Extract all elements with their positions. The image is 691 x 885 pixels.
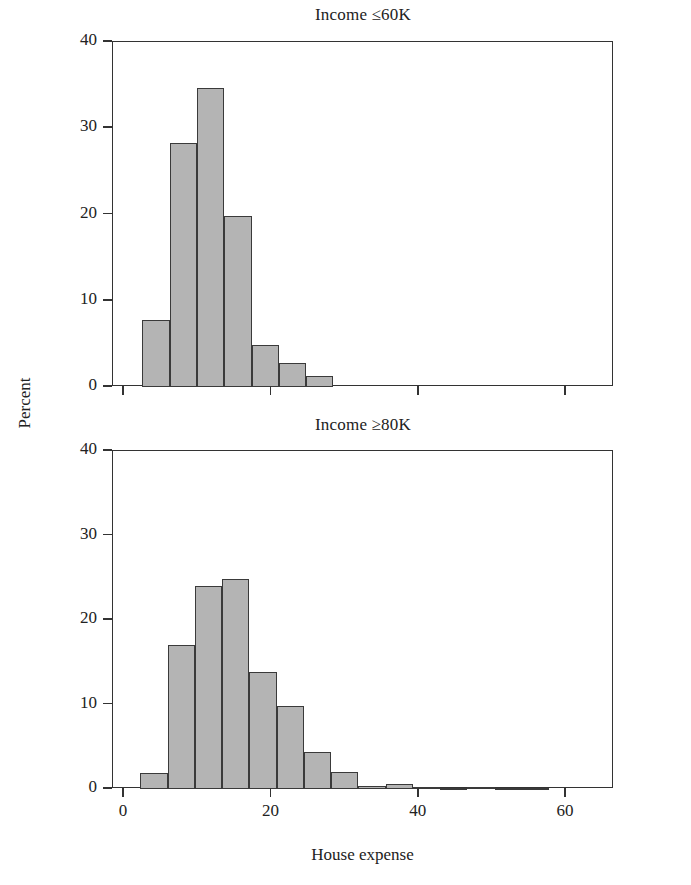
y-tick-mark (103, 385, 112, 387)
x-tick-label: 40 (388, 801, 448, 821)
x-tick-label: 60 (535, 801, 595, 821)
histogram-bar (440, 788, 467, 790)
x-tick-mark (122, 386, 124, 395)
y-tick-label: 30 (52, 524, 97, 544)
x-tick-mark (417, 386, 419, 395)
y-tick-label: 40 (52, 439, 97, 459)
y-tick-mark (103, 618, 112, 620)
x-tick-mark (270, 788, 272, 797)
y-tick-label: 0 (52, 777, 97, 797)
y-tick-mark (103, 40, 112, 42)
y-tick-mark (103, 787, 112, 789)
figure-histogram-panels: Percent Income ≤60K 010203040 Income ≥80… (0, 0, 691, 885)
histogram-bar (168, 645, 195, 789)
x-axis-label: House expense (112, 845, 613, 865)
x-tick-mark (417, 788, 419, 797)
histogram-bar (331, 772, 358, 789)
y-tick-label: 10 (52, 693, 97, 713)
x-tick-mark (122, 788, 124, 797)
histogram-bar (140, 773, 167, 789)
x-tick-mark (564, 788, 566, 797)
y-tick-label: 20 (52, 203, 97, 223)
panel-title-top: Income ≤60K (113, 5, 613, 25)
histogram-bar (304, 752, 331, 789)
y-tick-label: 20 (52, 608, 97, 628)
y-tick-mark (103, 126, 112, 128)
histogram-bar (522, 788, 549, 790)
bar-series-bottom (113, 451, 612, 787)
x-tick-label: 0 (93, 801, 153, 821)
y-axis-label: Percent (15, 358, 35, 448)
x-tick-mark (564, 386, 566, 395)
histogram-bar (197, 88, 224, 387)
x-tick-mark (270, 386, 272, 395)
bar-series-top (113, 42, 612, 385)
x-tick-label: 20 (240, 801, 300, 821)
y-tick-label: 40 (52, 30, 97, 50)
y-tick-mark (103, 534, 112, 536)
histogram-bar (467, 787, 494, 789)
histogram-bar (386, 784, 413, 789)
y-tick-mark (103, 213, 112, 215)
histogram-bar (306, 376, 333, 387)
plot-area-top (112, 41, 613, 386)
histogram-bar (195, 586, 222, 789)
panel-title-bottom: Income ≥80K (113, 415, 613, 435)
plot-area-bottom (112, 450, 613, 788)
histogram-bar (222, 579, 249, 789)
histogram-bar (252, 345, 279, 387)
histogram-bar (224, 216, 251, 387)
histogram-bar (249, 672, 276, 789)
y-tick-label: 0 (52, 375, 97, 395)
histogram-bar (277, 706, 304, 789)
histogram-bar (279, 363, 306, 387)
y-tick-mark (103, 449, 112, 451)
histogram-bar (495, 788, 522, 790)
y-tick-label: 10 (52, 289, 97, 309)
y-tick-mark (103, 299, 112, 301)
histogram-bar (170, 143, 197, 387)
histogram-bar (142, 320, 169, 387)
histogram-bar (358, 786, 385, 789)
y-tick-label: 30 (52, 116, 97, 136)
y-tick-mark (103, 703, 112, 705)
